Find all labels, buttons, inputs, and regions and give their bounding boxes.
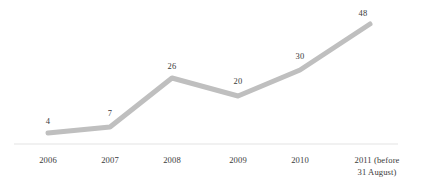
data-label: 30 [280,51,320,61]
x-axis-tick-label: 2010 [266,155,334,167]
x-axis-tick-label: 2007 [76,155,144,167]
x-axis-tick-label: 2011 (before 31 August) [343,155,411,178]
x-axis-tick-label: 2008 [138,155,206,167]
data-label: 48 [343,8,383,18]
data-label: 7 [90,108,130,118]
x-axis-tick-label: 2009 [204,155,272,167]
data-label: 26 [152,61,192,71]
data-label: 4 [28,116,68,126]
data-label: 20 [218,76,258,86]
line-chart: 4 7 26 20 30 48 2006 2007 2008 2009 2010… [0,0,421,191]
x-axis-tick-label: 2006 [14,155,82,167]
